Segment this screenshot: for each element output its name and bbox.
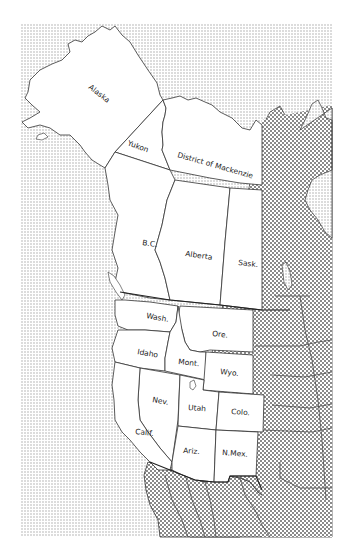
label-mont: Ore. [212, 329, 229, 340]
western-north-america-map: Alaska Yukon District of Mackenzie B.C. … [0, 0, 351, 552]
crosshatch-east-block [262, 105, 332, 537]
label-utah: Utah [188, 403, 207, 413]
label-colo: Colo. [231, 407, 250, 417]
label-ariz: Ariz. [183, 446, 200, 456]
label-nmex: N.Mex. [222, 448, 248, 459]
label-calif: Calif. [135, 427, 154, 438]
